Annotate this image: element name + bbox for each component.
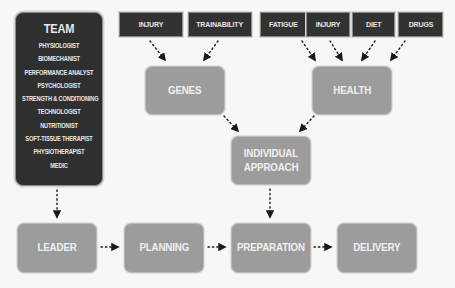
arrow-drugs-to-health [391,41,405,60]
arrow-injury-to-genes [150,41,165,60]
arrow-fatigue-to-health [302,41,315,60]
connector-arrows [0,0,455,288]
arrow-health-to-approach [300,116,314,131]
arrow-diet-to-health [362,41,375,60]
arrow-genes-to-approach [224,116,238,131]
arrow-injury-to-health [330,41,342,60]
arrow-trainability-to-genes [204,41,218,60]
